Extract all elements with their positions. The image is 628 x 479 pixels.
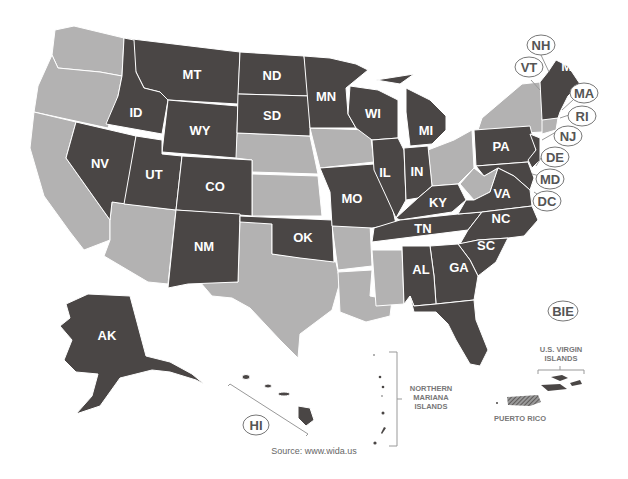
hi-molokai-maui — [278, 392, 290, 396]
callout-vt[interactable]: VT — [515, 57, 543, 77]
nmi-label-2: MARIANA — [413, 393, 449, 402]
hi-oahu — [265, 384, 272, 388]
label-ut: UT — [145, 167, 162, 182]
usvi-label-1: U.S. VIRGIN — [540, 345, 583, 354]
pr-label: PUERTO RICO — [494, 414, 546, 423]
state-ak[interactable] — [60, 294, 204, 414]
label-pa: PA — [492, 139, 510, 154]
label-nc: NC — [492, 211, 511, 226]
usvi-bracket — [538, 366, 584, 374]
source-caption: Source: www.wida.us — [0, 446, 628, 456]
nmi-label-3: ISLANDS — [415, 402, 448, 411]
label-me: ME — [561, 59, 581, 74]
label-ak: AK — [98, 328, 117, 343]
hi-kauai — [242, 375, 250, 380]
label-al: AL — [412, 262, 429, 277]
hi-big-island — [298, 406, 314, 426]
nmi-bracket — [389, 352, 402, 446]
label-wi: WI — [365, 106, 381, 121]
label-in: IN — [411, 164, 424, 179]
pr-shape[interactable] — [507, 395, 541, 406]
us-virgin-islands: U.S. VIRGIN ISLANDS — [538, 345, 584, 391]
svg-text:RI: RI — [576, 109, 589, 124]
state-fl[interactable] — [410, 296, 488, 366]
callout-nj[interactable]: NJ — [554, 126, 582, 146]
label-il: IL — [379, 165, 391, 180]
nmi-label-1: NORTHERN — [410, 384, 453, 393]
callout-nh[interactable]: NH — [527, 35, 555, 55]
label-nv: NV — [91, 156, 109, 171]
label-tn: TN — [414, 221, 431, 236]
svg-text:HI: HI — [250, 418, 263, 433]
label-nd: ND — [263, 68, 282, 83]
label-mo: MO — [342, 191, 363, 206]
label-sd: SD — [263, 108, 281, 123]
state-ms[interactable] — [372, 250, 404, 306]
northern-mariana-islands: NORTHERN MARIANA ISLANDS — [373, 352, 452, 446]
callout-hi[interactable]: HI — [243, 415, 269, 435]
label-id: ID — [130, 105, 143, 120]
state-ks[interactable] — [252, 174, 322, 216]
label-va: VA — [493, 186, 511, 201]
state-ar[interactable] — [332, 224, 372, 270]
svg-text:NH: NH — [532, 38, 551, 53]
hawaii — [228, 375, 314, 437]
label-ga: GA — [449, 260, 469, 275]
svg-text:BIE: BIE — [552, 304, 574, 319]
us-map: NORTHERN MARIANA ISLANDS PUERTO RICO U.S… — [0, 0, 628, 479]
svg-text:VT: VT — [521, 60, 538, 75]
callout-dc[interactable]: DC — [533, 191, 561, 211]
svg-text:DC: DC — [538, 194, 557, 209]
label-ky: KY — [429, 195, 447, 210]
callout-ma[interactable]: MA — [570, 83, 598, 103]
callout-md[interactable]: MD — [536, 169, 564, 189]
label-mt: MT — [183, 67, 202, 82]
label-fl: FL — [483, 323, 499, 338]
callout-bie[interactable]: BIE — [548, 301, 578, 321]
puerto-rico: PUERTO RICO — [494, 395, 546, 423]
svg-text:MA: MA — [574, 86, 595, 101]
state-az[interactable] — [104, 202, 176, 284]
label-mn: MN — [316, 89, 336, 104]
svg-text:MD: MD — [540, 172, 560, 187]
callout-de[interactable]: DE — [541, 147, 569, 167]
label-nm: NM — [194, 239, 214, 254]
usvi-label-2: ISLANDS — [545, 354, 578, 363]
label-mi: MI — [419, 123, 433, 138]
label-ok: OK — [293, 230, 313, 245]
label-wy: WY — [190, 123, 211, 138]
svg-text:NJ: NJ — [560, 129, 577, 144]
svg-text:DE: DE — [546, 150, 564, 165]
label-co: CO — [205, 179, 225, 194]
callout-ri[interactable]: RI — [568, 106, 596, 126]
label-sc: SC — [477, 238, 496, 253]
